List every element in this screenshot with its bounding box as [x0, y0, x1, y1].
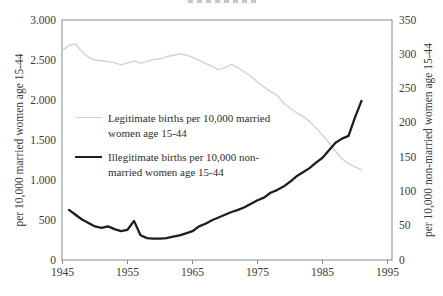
x-axis-tick: 1945 [48, 266, 78, 279]
legend-label-legitimate: Legitimate births per 10,000 marriedwome… [108, 111, 270, 140]
left-axis-tick: 2.500 [4, 54, 56, 67]
legend-legitimate-line1: Legitimate births per 10,000 married [108, 112, 270, 124]
left-axis-tick: 2.000 [4, 94, 56, 107]
illegitimate-line-sample [75, 156, 102, 158]
left-axis-tick: 500 [4, 214, 56, 227]
legend-illegitimate-line1: Illegitimate births per 10,000 non- [108, 151, 259, 163]
legend-item-illegitimate: Illegitimate births per 10,000 non-marri… [75, 150, 270, 179]
left-axis-tick: 1.500 [4, 134, 56, 147]
legend: Legitimate births per 10,000 marriedwome… [75, 111, 270, 189]
x-axis-tick: 1955 [113, 266, 143, 279]
right-axis-title: per 10,000 non-married women age 15-44 [422, 34, 434, 246]
x-axis-tick: 1965 [178, 266, 208, 279]
x-axis-tick: 1995 [373, 266, 403, 279]
chart-canvas: 3.0002.5002.0001.5001.0005000 3503002502… [0, 0, 443, 296]
legend-illegitimate-line2: married women age 15-44 [108, 166, 224, 178]
right-axis-tick: 0 [399, 254, 439, 267]
legitimate-line-sample [75, 117, 102, 118]
x-axis-tick: 1985 [308, 266, 338, 279]
legend-label-illegitimate: Illegitimate births per 10,000 non-marri… [108, 150, 259, 179]
left-axis-tick: 0 [4, 254, 56, 267]
left-axis-tick: 3.000 [4, 14, 56, 27]
legend-item-legitimate: Legitimate births per 10,000 marriedwome… [75, 111, 270, 140]
left-axis-title: per 10,000 married women age 15-44 [13, 40, 25, 240]
right-axis-tick: 350 [399, 14, 439, 27]
legend-legitimate-line2: women age 15-44 [108, 127, 187, 139]
left-axis-tick: 1.000 [4, 174, 56, 187]
x-axis-tick: 1975 [243, 266, 273, 279]
